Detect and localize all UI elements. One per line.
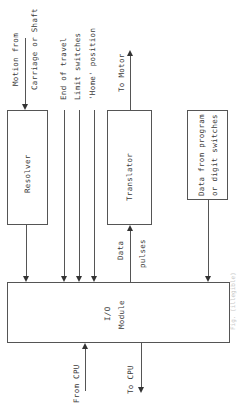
resolver-output-line: [26, 225, 27, 276]
figure-caption: Fig. (illegible): [229, 272, 236, 330]
from-cpu-line: [85, 349, 86, 391]
io-module-block: I/O Module: [7, 282, 230, 343]
pulses-label: pulses: [138, 239, 147, 268]
to-cpu-label: To CPU: [126, 365, 135, 394]
data-source-line2: or digit switches: [210, 114, 219, 196]
motion-source-label: Carriage or Shaft: [30, 8, 39, 90]
module-label: Module: [117, 300, 126, 329]
data-source-output-line: [208, 200, 209, 276]
limit-switches-line: [79, 110, 80, 276]
home-position-line: [94, 110, 95, 276]
translator-block: Translator: [107, 110, 152, 225]
from-cpu-label: From CPU: [72, 364, 81, 403]
motion-from-label: Motion from: [11, 33, 20, 86]
resolver-block: Resolver: [7, 110, 48, 225]
home-position-label: 'Home' position: [88, 28, 97, 100]
resolver-label: Resolver: [23, 154, 32, 193]
motion-input-line: [25, 38, 26, 104]
end-of-travel-label: End of travel: [59, 37, 68, 100]
data-source-block: Data from program or digit switches: [187, 110, 228, 200]
to-motor-line: [130, 56, 131, 110]
translator-label: Translator: [125, 153, 134, 201]
io-label: I/O: [103, 307, 112, 321]
to-motor-label: To Motor: [117, 53, 126, 92]
to-cpu-line: [141, 343, 142, 387]
data-source-line1: Data from program: [197, 114, 206, 196]
limit-switches-label: Limit switches: [73, 33, 82, 100]
data-label: Data: [116, 241, 125, 260]
data-pulses-line: [130, 231, 131, 282]
to-cpu-arrow-head: [138, 387, 144, 393]
end-of-travel-line: [64, 110, 65, 276]
